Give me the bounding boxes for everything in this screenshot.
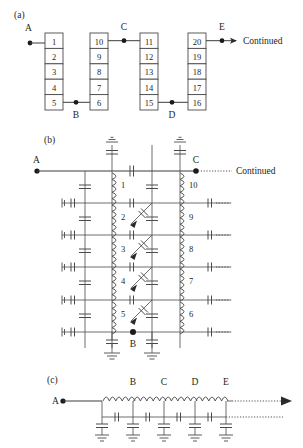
terminal-label-c-c: C [161, 377, 167, 387]
terminal-label-b-c: B [130, 377, 136, 387]
cell-number: 16 [193, 98, 202, 108]
cell-number: 10 [95, 37, 104, 47]
inductor-right-8 [180, 237, 184, 269]
terminal-dot-d[interactable] [170, 100, 175, 105]
figure-root: (a) A 1 2 3 4 5 B 10 [0, 0, 303, 448]
terminal-label-d: D [169, 110, 176, 120]
shunt-cap-ground-c-5 [219, 417, 233, 441]
panel-a-column-4: 20 19 18 17 16 [188, 33, 206, 110]
inductor-series-1 [103, 397, 135, 401]
cell-number: 5 [52, 98, 56, 108]
coil-number-left: 2 [121, 212, 125, 222]
shunt-cap-ground-c-4 [188, 417, 202, 441]
continued-label-b: Continued [236, 166, 276, 176]
inductor-right-7 [180, 269, 184, 301]
terminal-label-c: C [121, 22, 127, 32]
coil-number-right: 9 [189, 212, 193, 222]
panel-a: (a) A 1 2 3 4 5 B 10 [14, 10, 283, 120]
rung-4 [62, 263, 232, 272]
coil-number-right: 8 [189, 244, 193, 254]
panel-b-label: (b) [44, 135, 55, 146]
cell-number: 1 [52, 37, 56, 47]
coil-number-left: 5 [121, 309, 125, 319]
cell-number: 18 [193, 67, 202, 77]
panel-a-label: (a) [14, 10, 25, 21]
panel-a-column-2: 10 9 8 7 6 [90, 33, 108, 110]
coil-number-left: 3 [121, 244, 125, 254]
shunt-cap-ground-c-1 [95, 417, 109, 441]
cell-number: 9 [97, 52, 101, 62]
terminal-label-c-b: C [193, 155, 199, 165]
rung-5 [62, 296, 232, 305]
shunt-cap-ground-c-3 [157, 417, 171, 441]
terminal-label-d-c: D [192, 377, 199, 387]
terminal-dot-b-b[interactable] [130, 329, 136, 335]
coil-number-right: 7 [189, 276, 193, 286]
continued-label-a: Continued [243, 36, 283, 46]
coil-number-left: 4 [121, 276, 126, 286]
terminal-label-a-c: A [52, 396, 59, 406]
terminal-label-b-b: B [130, 339, 136, 349]
inductor-series-4 [196, 397, 228, 401]
inductor-left-4 [112, 269, 116, 301]
terminal-dot-e[interactable] [220, 38, 225, 43]
bottom-cap-ground-left [104, 332, 120, 359]
inductor-series-3 [165, 397, 197, 401]
cell-number: 11 [145, 37, 153, 47]
bottom-cap-ground-mid [144, 332, 160, 359]
cell-number: 15 [145, 98, 154, 108]
panel-b: (b) A C Continued [33, 135, 276, 359]
cell-number: 8 [97, 67, 101, 77]
cell-number: 14 [145, 83, 154, 93]
shunt-cap-ground-c-2 [126, 417, 140, 441]
inductor-right-9 [180, 205, 184, 237]
continued-arrow-icon-c [281, 397, 292, 406]
panel-a-column-3: 11 12 13 14 15 [140, 33, 158, 110]
terminal-label-a-b: A [33, 155, 40, 165]
terminal-dot-b[interactable] [74, 100, 79, 105]
cell-number: 20 [193, 37, 202, 47]
rung-3 [62, 231, 232, 240]
cell-number: 6 [97, 98, 101, 108]
cell-number: 19 [193, 52, 202, 62]
coil-number-right: 10 [189, 180, 198, 190]
panel-c-label: (c) [47, 375, 58, 386]
terminal-dot-c-b[interactable] [193, 168, 199, 174]
inductor-right-6 [180, 302, 184, 334]
inductor-series-2 [134, 397, 166, 401]
cell-number: 13 [145, 67, 154, 77]
inductor-right-10 [180, 173, 184, 205]
terminal-label-e: E [219, 22, 225, 32]
coil-number-right: 6 [189, 309, 193, 319]
terminal-label-b: B [73, 110, 79, 120]
coil-stage-2: 2 9 [79, 203, 193, 237]
terminal-label-e-c: E [223, 377, 229, 387]
cell-number: 7 [97, 83, 101, 93]
inductor-left-1 [112, 173, 116, 205]
rung-2 [62, 199, 232, 208]
inductor-left-5 [112, 302, 116, 334]
coil-number-left: 1 [121, 180, 125, 190]
rung-6: B [62, 328, 232, 350]
coil-stage-4: 4 7 [79, 267, 193, 301]
cell-number: 2 [52, 52, 56, 62]
panel-c: (c) A B C D E [47, 375, 292, 441]
cell-number: 17 [193, 83, 202, 93]
coil-stage-5: 5 6 [79, 300, 193, 334]
inductor-left-2 [112, 205, 116, 237]
inductor-left-3 [112, 237, 116, 269]
terminal-dot-c[interactable] [122, 38, 127, 43]
terminal-label-a: A [25, 23, 32, 33]
panel-a-column-1: 1 2 3 4 5 [45, 33, 63, 110]
cell-number: 12 [145, 52, 154, 62]
cell-number: 3 [52, 67, 56, 77]
coil-stage-3: 3 8 [79, 235, 193, 269]
